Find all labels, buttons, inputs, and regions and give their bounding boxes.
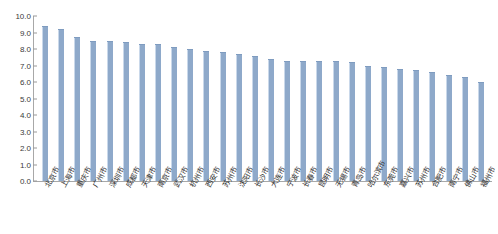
- bar: [268, 59, 274, 181]
- y-tick-label: 5.0: [0, 94, 35, 103]
- bar-slot: [392, 16, 408, 181]
- bar: [252, 56, 258, 181]
- bar-slot: [408, 16, 424, 181]
- bar: [333, 61, 339, 181]
- y-tick-label: 2.0: [0, 144, 35, 153]
- y-tick-label: 1.0: [0, 160, 35, 169]
- x-label-slot: 昆明市: [311, 183, 327, 234]
- bar: [397, 69, 403, 181]
- bar: [123, 42, 129, 181]
- x-label-slot: 合肥市: [424, 183, 440, 234]
- bar: [429, 72, 435, 181]
- x-label-slot: 哈尔滨市: [360, 183, 376, 234]
- bar: [413, 70, 419, 181]
- bar: [300, 61, 306, 181]
- bar-slot: [166, 16, 182, 181]
- bar-chart: 10.09.08.07.06.05.04.03.02.01.00.0 北京市上海…: [0, 0, 498, 234]
- bar: [203, 51, 209, 181]
- bar-slot: [328, 16, 344, 181]
- bar: [349, 62, 355, 181]
- x-label-slot: 佛山市: [457, 183, 473, 234]
- y-tick-label: 3.0: [0, 127, 35, 136]
- bar-slot: [279, 16, 295, 181]
- y-tick-label: 6.0: [0, 78, 35, 87]
- x-label-slot: 福州市: [473, 183, 489, 234]
- x-label-slot: 长沙市: [247, 183, 263, 234]
- bar: [462, 77, 468, 181]
- bar: [284, 61, 290, 181]
- bar-slot: [53, 16, 69, 181]
- bar-slot: [102, 16, 118, 181]
- bar: [316, 61, 322, 181]
- y-tick-label: 0.0: [0, 177, 35, 186]
- bar: [58, 29, 64, 181]
- x-label-slot: 嘉兴市: [392, 183, 408, 234]
- bar-slot: [231, 16, 247, 181]
- bar-series: [34, 16, 492, 181]
- bar: [171, 47, 177, 181]
- y-tick-label: 9.0: [0, 28, 35, 37]
- bar-slot: [118, 16, 134, 181]
- x-label-slot: 广州市: [85, 183, 101, 234]
- x-label-slot: 东莞市: [376, 183, 392, 234]
- x-axis-labels: 北京市上海市重庆市广州市深圳市成都市天津市南京市武汉市杭州市西安市苏州市沈阳市长…: [34, 183, 492, 234]
- bar: [236, 54, 242, 181]
- bar-slot: [311, 16, 327, 181]
- x-label-slot: 苏州市: [215, 183, 231, 234]
- bar: [220, 52, 226, 181]
- bar-slot: [473, 16, 489, 181]
- bar-slot: [37, 16, 53, 181]
- x-label-slot: 南京市: [150, 183, 166, 234]
- y-tick-label: 4.0: [0, 111, 35, 120]
- x-label-slot: 南宁市: [441, 183, 457, 234]
- x-label-slot: 宁波市: [279, 183, 295, 234]
- bar: [365, 66, 371, 182]
- x-label-slot: 武汉市: [166, 183, 182, 234]
- bar: [90, 41, 96, 181]
- x-label-slot: 青岛市: [344, 183, 360, 234]
- x-label-slot: 大连市: [263, 183, 279, 234]
- x-label-slot: 重庆市: [69, 183, 85, 234]
- bar-slot: [344, 16, 360, 181]
- bar-slot: [295, 16, 311, 181]
- bar: [139, 44, 145, 181]
- x-label-slot: 成都市: [118, 183, 134, 234]
- bar: [107, 41, 113, 181]
- bar-slot: [376, 16, 392, 181]
- bar: [42, 26, 48, 181]
- bar: [478, 82, 484, 181]
- bar-slot: [247, 16, 263, 181]
- bar-slot: [69, 16, 85, 181]
- x-label-slot: 西安市: [198, 183, 214, 234]
- x-label-slot: 深圳市: [102, 183, 118, 234]
- y-tick-label: 7.0: [0, 61, 35, 70]
- y-tick-label: 10.0: [0, 12, 35, 21]
- bar-slot: [263, 16, 279, 181]
- bar-slot: [424, 16, 440, 181]
- bar-slot: [182, 16, 198, 181]
- x-label-slot: 上海市: [53, 183, 69, 234]
- bar-slot: [134, 16, 150, 181]
- bar-slot: [441, 16, 457, 181]
- bar: [446, 75, 452, 181]
- x-label-slot: 苏州市: [408, 183, 424, 234]
- x-label-slot: 杭州市: [182, 183, 198, 234]
- bar: [187, 49, 193, 181]
- x-label-slot: 天津市: [134, 183, 150, 234]
- bar-slot: [215, 16, 231, 181]
- bar: [74, 37, 80, 181]
- bar-slot: [198, 16, 214, 181]
- bar-slot: [360, 16, 376, 181]
- x-label-slot: 北京市: [37, 183, 53, 234]
- y-tick-label: 8.0: [0, 45, 35, 54]
- bar-slot: [150, 16, 166, 181]
- bar-slot: [85, 16, 101, 181]
- bar: [155, 44, 161, 181]
- x-label-slot: 无锡市: [328, 183, 344, 234]
- x-label-slot: 沈阳市: [231, 183, 247, 234]
- x-label-slot: 长春市: [295, 183, 311, 234]
- bar-slot: [457, 16, 473, 181]
